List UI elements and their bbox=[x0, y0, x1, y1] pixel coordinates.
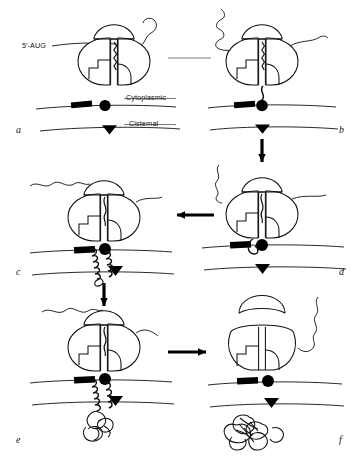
mrna-strand bbox=[42, 308, 103, 312]
mrna-strand bbox=[138, 18, 156, 47]
panel-letter-c: c bbox=[16, 266, 20, 277]
membrane-cisternal bbox=[204, 267, 346, 270]
nascent-polypeptide bbox=[262, 42, 265, 70]
mrna-strand bbox=[298, 297, 318, 352]
mrna-strand bbox=[30, 182, 90, 186]
membrane-cisternal bbox=[32, 272, 174, 275]
mrna-strand bbox=[216, 9, 225, 49]
membrane-cytoplasmic bbox=[202, 245, 344, 248]
membrane-cisternal bbox=[210, 127, 338, 130]
cytoplasmic-label: Cytoplasmic bbox=[126, 93, 166, 102]
mrna-right-tail bbox=[136, 197, 162, 202]
nascent-chain-helix bbox=[90, 380, 112, 411]
oligosaccharyl-marker bbox=[255, 125, 270, 134]
ribosome bbox=[68, 181, 140, 241]
nascent-polypeptide bbox=[104, 197, 106, 226]
oligosaccharyl-marker bbox=[102, 125, 117, 134]
signal-peptidase-bar bbox=[237, 377, 258, 385]
cisternal-label: Cisternal bbox=[129, 119, 158, 128]
panel-letter-e: e bbox=[16, 434, 20, 445]
panel-c bbox=[30, 181, 174, 286]
membrane-cisternal bbox=[32, 402, 174, 405]
panel-letter-a: a bbox=[16, 124, 21, 135]
nascent-polypeptide bbox=[104, 327, 106, 356]
panel-b bbox=[208, 9, 338, 134]
ribosome bbox=[226, 25, 298, 85]
translocon-pore bbox=[99, 100, 110, 111]
ribosome-small-subunit bbox=[239, 296, 285, 314]
signal-peptidase-bar bbox=[71, 101, 92, 109]
membrane-cytoplasmic bbox=[208, 105, 336, 108]
panel-letter-d: d bbox=[339, 266, 344, 277]
folding-protein bbox=[84, 411, 114, 441]
ribosome bbox=[78, 25, 150, 85]
folded-protein bbox=[224, 415, 283, 450]
panel-d bbox=[202, 165, 346, 274]
ribosome bbox=[68, 311, 140, 371]
membrane-cisternal bbox=[210, 404, 344, 407]
mrna-5prime-label: 5'-AUG bbox=[22, 41, 46, 50]
panel-letter-b: b bbox=[339, 124, 344, 135]
ribosome-large-subunit bbox=[229, 325, 296, 370]
nascent-polypeptide bbox=[261, 194, 263, 223]
signal-peptidase-bar bbox=[234, 101, 255, 108]
oligosaccharyl-marker bbox=[255, 264, 270, 274]
panel-e bbox=[30, 308, 174, 441]
translocon-pore bbox=[262, 375, 274, 387]
membrane-cytoplasmic bbox=[208, 382, 342, 385]
translocon-pore bbox=[99, 243, 111, 255]
panel-a bbox=[36, 18, 180, 134]
mrna-right-tail bbox=[290, 36, 328, 46]
figure-canvas bbox=[0, 0, 362, 463]
panel-letter-f: f bbox=[339, 434, 342, 445]
nascent-polypeptide bbox=[114, 42, 117, 70]
oligosaccharyl-marker bbox=[264, 398, 279, 408]
mrna-right-tail bbox=[292, 195, 326, 199]
mrna-right-tail bbox=[136, 330, 158, 336]
mrna-strand bbox=[215, 165, 222, 203]
ribosome bbox=[226, 178, 298, 238]
panel-f bbox=[208, 296, 344, 451]
translocon-pore bbox=[256, 100, 268, 112]
